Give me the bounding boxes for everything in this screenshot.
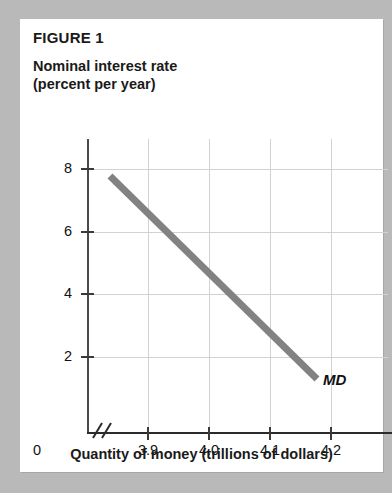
x-axis-title: Quantity of money (trillions of dollars) [20, 446, 383, 462]
plot-area: 8 6 4 2 3.9 4.0 4.1 4.2 0 MD [20, 19, 383, 472]
figure-panel: FIGURE 1 Nominal interest rate(percent p… [20, 19, 383, 472]
money-demand-curve [20, 19, 383, 472]
curve-label-md: MD [323, 371, 346, 388]
